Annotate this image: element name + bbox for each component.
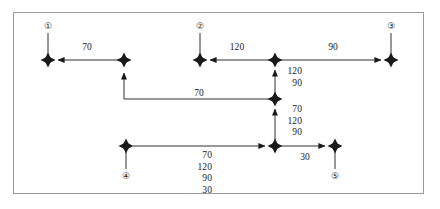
edge-label-hub-to-node1: 70 [82,42,92,53]
edge-label-hub-to-node2: 120 [230,42,245,53]
edge-label-hub-to-node3: 90 [328,42,338,53]
edge-label-elbow-70: 70 [194,88,204,99]
node-label-3: ③ [387,21,395,31]
figure-border [14,13,424,194]
node-label-2: ② [196,21,204,31]
node-label-5: ⑤ [331,171,339,181]
node-label-1: ① [44,21,52,31]
node-label-4: ④ [122,171,130,181]
diagram-canvas [0,0,440,209]
edge-label-hub-to-node5: 30 [300,152,310,163]
diagram-figure: ① ② ③ ④ ⑤ 70 120 90 70 120 90 70 120 90 … [0,0,440,209]
edge-label-node4-to-hub: 70 120 90 30 [197,150,212,196]
edge-label-hub-bottom-to-mid: 70 120 90 [287,104,302,139]
edge-label-hub-mid-to-top: 120 90 [287,66,302,89]
